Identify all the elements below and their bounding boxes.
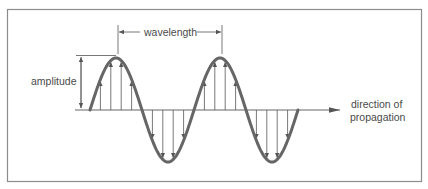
direction-label-line1: direction of xyxy=(351,98,402,110)
wavelength-label: wavelength xyxy=(143,26,197,38)
amplitude-label: amplitude xyxy=(31,75,77,87)
transverse-wave-diagram: amplitude wavelength direction of propag… xyxy=(0,0,428,189)
direction-label-line2: propagation xyxy=(350,111,406,123)
